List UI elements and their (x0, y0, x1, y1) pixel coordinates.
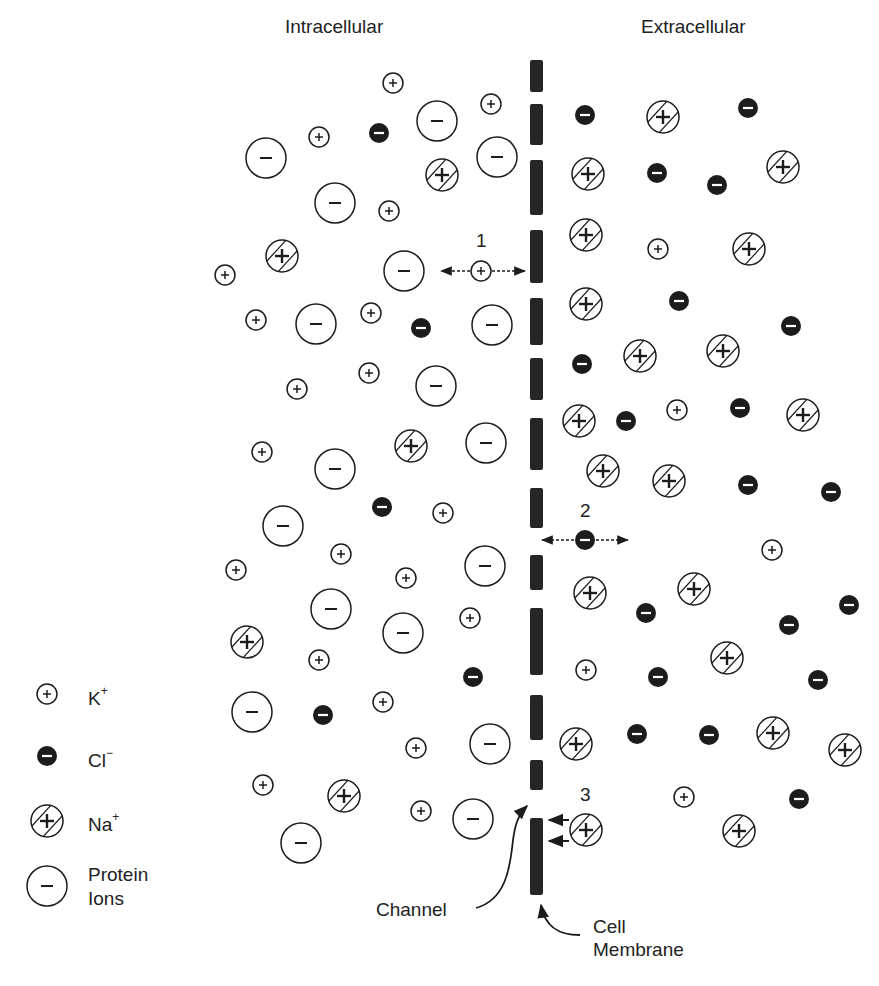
sodium-ion (711, 640, 743, 676)
protein-ion (383, 613, 423, 653)
potassium-ion (309, 650, 329, 670)
legend-sodium-ion-icon (31, 803, 63, 839)
chloride-ion (779, 615, 799, 635)
chloride-ion (699, 725, 719, 745)
protein-ion (311, 589, 351, 629)
legend-potassium-ion-icon (37, 684, 57, 704)
chloride-ion (707, 175, 727, 195)
potassium-ion (411, 801, 431, 821)
path3-ion (570, 812, 602, 848)
protein-ion (281, 823, 321, 863)
potassium-ion (460, 608, 480, 628)
potassium-ion (481, 94, 501, 114)
protein-ion (315, 183, 355, 223)
protein-ion (465, 546, 505, 586)
chloride-ion (821, 482, 841, 502)
potassium-ion (406, 738, 426, 758)
membrane-label-line1: Cell (593, 916, 626, 938)
legend-chloride-ion-icon (37, 746, 57, 766)
potassium-ion (226, 560, 246, 580)
chloride-ion (808, 670, 828, 690)
potassium-ion (674, 787, 694, 807)
potassium-ion (667, 400, 687, 420)
protein-ion (263, 506, 303, 546)
potassium-ion (762, 540, 782, 560)
potassium-ion (252, 442, 272, 462)
sodium-ion (757, 715, 789, 751)
membrane-segment (530, 608, 543, 675)
protein-ion (477, 137, 517, 177)
path1-label: 1 (476, 230, 487, 252)
sodium-ion (647, 99, 679, 135)
sodium-ion (563, 403, 595, 439)
channel-label: Channel (376, 899, 447, 921)
chloride-ion (372, 497, 392, 517)
path2-ion (575, 530, 595, 550)
potassium-ion (433, 503, 453, 523)
chloride-ion (738, 98, 758, 118)
protein-ion (466, 423, 506, 463)
potassium-ion (309, 127, 329, 147)
protein-ion (417, 101, 457, 141)
chloride-ion (411, 318, 431, 338)
potassium-ion (576, 660, 596, 680)
legend-cl-label: Cl− (88, 744, 113, 773)
diagram-canvas (0, 0, 879, 986)
membrane-segment (530, 760, 543, 790)
membrane-segment (530, 298, 543, 345)
potassium-ion (383, 73, 403, 93)
cell-membrane (530, 60, 543, 895)
membrane-segment (530, 818, 543, 895)
membrane-segment (530, 418, 543, 470)
membrane-label-line2: Membrane (593, 939, 684, 961)
chloride-ion (463, 667, 483, 687)
chloride-ion (636, 603, 656, 623)
legend-protein-label: Protein Ions (88, 863, 148, 911)
membrane-segment (530, 488, 543, 528)
potassium-ion (359, 363, 379, 383)
sodium-ion (653, 463, 685, 499)
potassium-ion (253, 775, 273, 795)
sodium-ion (426, 157, 458, 193)
intracellular-ions (215, 73, 517, 863)
protein-ion (232, 692, 272, 732)
membrane-segment (530, 358, 543, 400)
potassium-ion (379, 201, 399, 221)
legend-k-label: K+ (88, 682, 108, 711)
membrane-segment (530, 695, 543, 740)
sodium-ion (707, 333, 739, 369)
sodium-ion (560, 726, 592, 762)
sodium-ion (678, 571, 710, 607)
chloride-ion (575, 105, 595, 125)
sodium-ion (767, 149, 799, 185)
path3-arrows (549, 820, 569, 841)
membrane-segment (530, 230, 543, 283)
membrane-segment (530, 160, 543, 215)
potassium-ion (361, 303, 381, 323)
potassium-ion (287, 379, 307, 399)
protein-ion (453, 799, 493, 839)
chloride-ion (730, 398, 750, 418)
potassium-ion (215, 265, 235, 285)
sodium-ion (723, 813, 755, 849)
potassium-ion (373, 692, 393, 712)
sodium-ion (572, 156, 604, 192)
sodium-ion (733, 231, 765, 267)
path3-label: 3 (580, 784, 591, 806)
chloride-ion (781, 316, 801, 336)
sodium-ion (829, 732, 861, 768)
sodium-ion (574, 575, 606, 611)
sodium-ion (787, 397, 819, 433)
protein-ion (416, 366, 456, 406)
legend-na-label: Na+ (88, 808, 119, 837)
potassium-ion (396, 568, 416, 588)
chloride-ion (647, 163, 667, 183)
protein-ion (470, 724, 510, 764)
protein-ion (315, 449, 355, 489)
sodium-ion (266, 238, 298, 274)
chloride-ion (616, 411, 636, 431)
membrane-segment (530, 555, 543, 590)
protein-ion (472, 305, 512, 345)
sodium-ion (328, 778, 360, 814)
potassium-ion (648, 239, 668, 259)
